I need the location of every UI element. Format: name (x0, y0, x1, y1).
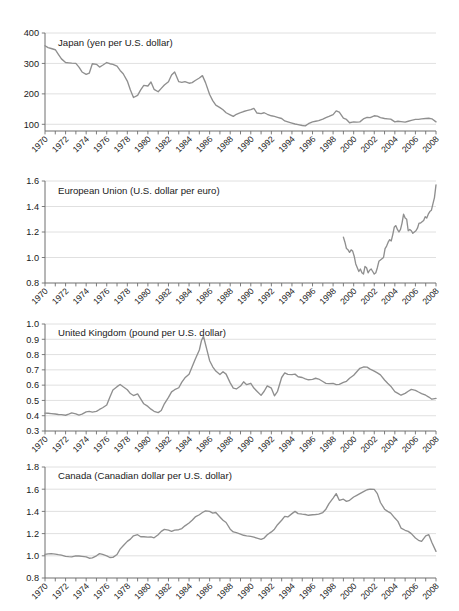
x-tick-label: 1974 (70, 134, 91, 155)
panel-title: Canada (Canadian dollar per U.S. dollar) (58, 470, 232, 481)
x-tick-label: 1982 (153, 434, 174, 455)
x-tick-label: 2004 (379, 581, 400, 602)
x-tick-label: 2008 (420, 581, 441, 602)
y-tick-label: 1.4 (26, 507, 39, 517)
x-tick-label: 1976 (91, 434, 112, 455)
exchange-rate-figure: 1002003004001970197219741976197819801982… (0, 0, 459, 611)
data-line (45, 489, 436, 558)
y-tick-label: 0.8 (26, 573, 39, 583)
x-tick-label: 1972 (50, 134, 71, 155)
x-tick-label: 2002 (359, 286, 380, 307)
x-tick-label: 1994 (276, 134, 297, 155)
x-tick-label: 1984 (173, 134, 194, 155)
y-tick-label: 200 (24, 89, 39, 99)
x-tick-label: 2004 (379, 434, 400, 455)
x-tick-label: 1990 (235, 434, 256, 455)
data-line (45, 336, 436, 415)
x-tick-label: 1988 (215, 286, 236, 307)
x-tick-label: 1986 (194, 581, 215, 602)
x-tick-label: 1982 (153, 286, 174, 307)
x-tick-label: 2006 (400, 434, 421, 455)
x-tick-label: 2000 (338, 286, 359, 307)
x-tick-label: 2002 (359, 134, 380, 155)
x-tick-label: 1990 (235, 286, 256, 307)
y-tick-label: 0.6 (26, 380, 39, 390)
x-tick-label: 1980 (132, 286, 153, 307)
chart-canvas: 1002003004001970197219741976197819801982… (0, 0, 459, 611)
x-tick-label: 1980 (132, 581, 153, 602)
x-tick-label: 2002 (359, 434, 380, 455)
y-tick-label: 100 (24, 120, 39, 130)
x-tick-label: 1974 (70, 286, 91, 307)
x-tick-label: 1982 (153, 581, 174, 602)
y-tick-label: 1.2 (26, 529, 39, 539)
x-tick-label: 1978 (112, 134, 133, 155)
x-tick-label: 1984 (173, 434, 194, 455)
y-tick-label: 1.0 (26, 319, 39, 329)
x-tick-label: 1988 (215, 581, 236, 602)
x-tick-label: 1998 (317, 434, 338, 455)
x-tick-label: 1986 (194, 286, 215, 307)
x-tick-label: 1988 (215, 134, 236, 155)
x-tick-label: 1994 (276, 434, 297, 455)
x-tick-label: 2004 (379, 134, 400, 155)
x-tick-label: 1990 (235, 134, 256, 155)
x-tick-label: 2004 (379, 286, 400, 307)
panel-title: Japan (yen per U.S. dollar) (58, 37, 173, 48)
x-tick-label: 1986 (194, 434, 215, 455)
x-tick-label: 1996 (297, 581, 318, 602)
data-line (343, 185, 436, 274)
y-tick-label: 1.6 (26, 485, 39, 495)
y-tick-label: 1.0 (26, 551, 39, 561)
y-tick-label: 0.7 (26, 365, 39, 375)
x-tick-label: 1992 (256, 286, 277, 307)
x-tick-label: 1970 (29, 134, 50, 155)
x-tick-label: 1970 (29, 286, 50, 307)
y-tick-label: 0.8 (26, 350, 39, 360)
y-tick-label: 1.8 (26, 462, 39, 472)
x-tick-label: 1984 (173, 286, 194, 307)
x-tick-label: 2006 (400, 581, 421, 602)
data-line (45, 46, 436, 126)
y-tick-label: 1.4 (26, 202, 39, 212)
x-tick-label: 1980 (132, 434, 153, 455)
y-tick-label: 0.3 (26, 426, 39, 436)
panel-title: United Kingdom (pound per U.S. dollar) (58, 327, 226, 338)
panel-2: 0.81.01.21.41.61970197219741976197819801… (26, 176, 441, 306)
x-tick-label: 1980 (132, 134, 153, 155)
y-tick-label: 300 (24, 59, 39, 69)
x-tick-label: 2002 (359, 581, 380, 602)
x-tick-label: 2000 (338, 581, 359, 602)
x-tick-label: 1972 (50, 581, 71, 602)
x-tick-label: 2008 (420, 134, 441, 155)
x-tick-label: 2006 (400, 134, 421, 155)
y-tick-label: 0.9 (26, 335, 39, 345)
x-tick-label: 1972 (50, 434, 71, 455)
x-tick-label: 1990 (235, 581, 256, 602)
x-tick-label: 2008 (420, 434, 441, 455)
y-tick-label: 0.5 (26, 396, 39, 406)
x-tick-label: 1988 (215, 434, 236, 455)
panel-4: 0.81.01.21.41.61.81970197219741976197819… (26, 462, 441, 601)
x-tick-label: 1996 (297, 286, 318, 307)
x-tick-label: 2008 (420, 286, 441, 307)
x-tick-label: 1978 (112, 286, 133, 307)
y-tick-label: 1.2 (26, 227, 39, 237)
y-tick-label: 400 (24, 28, 39, 38)
x-tick-label: 1976 (91, 134, 112, 155)
x-tick-label: 1994 (276, 581, 297, 602)
x-tick-label: 1998 (317, 134, 338, 155)
y-tick-label: 0.8 (26, 278, 39, 288)
x-tick-label: 1970 (29, 581, 50, 602)
x-tick-label: 1974 (70, 581, 91, 602)
y-tick-label: 1.6 (26, 176, 39, 186)
x-tick-label: 1998 (317, 581, 338, 602)
x-tick-label: 1986 (194, 134, 215, 155)
panel-3: 0.30.40.50.60.70.80.91.01970197219741976… (26, 319, 441, 454)
x-tick-label: 1970 (29, 434, 50, 455)
x-tick-label: 1998 (317, 286, 338, 307)
x-tick-label: 2006 (400, 286, 421, 307)
x-tick-label: 1976 (91, 286, 112, 307)
x-tick-label: 1982 (153, 134, 174, 155)
y-tick-label: 0.4 (26, 411, 39, 421)
